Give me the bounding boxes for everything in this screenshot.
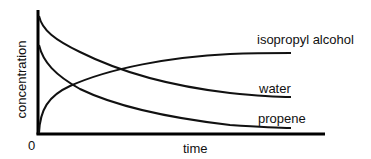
x-origin-tick-label: 0 — [28, 139, 35, 152]
propene-curve — [39, 45, 291, 128]
isopropyl-alcohol-curve — [39, 53, 291, 133]
water-curve — [39, 16, 291, 97]
chart-canvas — [0, 0, 371, 159]
isopropyl-alcohol-label: isopropyl alcohol — [257, 33, 354, 46]
x-axis-title: time — [183, 142, 208, 155]
y-axis-title: concentration — [15, 35, 28, 125]
propene-label: propene — [258, 112, 306, 125]
water-label: water — [259, 82, 291, 95]
